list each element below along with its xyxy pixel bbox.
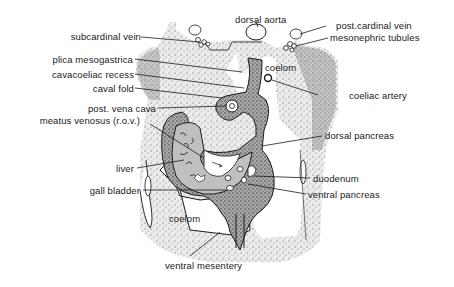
label-coelom-lower: coelom xyxy=(169,213,200,224)
label-ventral-mesentery: ventral mesentery xyxy=(165,260,242,271)
label-caval-fold: caval fold xyxy=(93,83,134,94)
label-plica-mesogastrica: plica mesogastrica xyxy=(53,54,133,65)
label-mesonephric-tubules: mesonephric tubules xyxy=(330,32,420,43)
label-dorsal-aorta: dorsal aorta xyxy=(235,14,286,25)
label-subcardinal-vein: subcardinal vein xyxy=(71,31,141,42)
coeliac-artery-shape xyxy=(265,75,272,82)
embryo-cross-section-diagram xyxy=(0,0,454,287)
label-cavacoeliac-recess: cavacoeliac recess xyxy=(52,69,134,80)
label-dorsal-pancreas: dorsal pancreas xyxy=(325,130,394,141)
label-meatus-venosus: meatus venosus (r.o.v.) xyxy=(40,115,140,126)
label-duodenum: duodenum xyxy=(313,173,359,184)
label-coelom-upper: coelom xyxy=(265,62,296,73)
label-post-cardinal-vein: post.cardinal vein xyxy=(336,20,412,31)
label-gall-bladder: gall bladder xyxy=(90,185,140,196)
label-ventral-pancreas: ventral pancreas xyxy=(308,189,380,200)
dorsal-aorta-shape xyxy=(246,24,266,40)
label-post-vena-cava: post. vena cava xyxy=(88,103,156,114)
label-liver: liver xyxy=(116,163,134,174)
label-coeliac-artery: coeliac artery xyxy=(349,90,407,101)
